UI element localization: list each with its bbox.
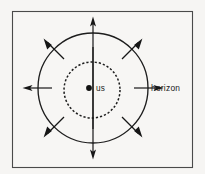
- horizon-diagram-figure: us horizon: [0, 0, 205, 174]
- observer-dot-icon: [86, 85, 92, 91]
- horizon-label: horizon: [151, 83, 180, 93]
- diagram-canvas: us horizon: [0, 0, 205, 174]
- observer-label: us: [96, 84, 105, 93]
